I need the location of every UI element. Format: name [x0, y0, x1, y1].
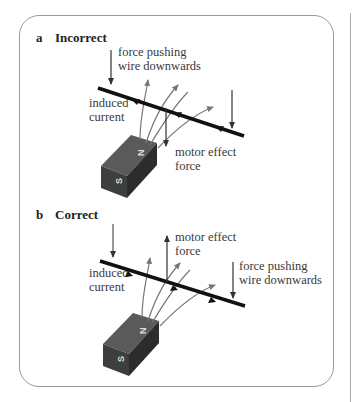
north-pole-label: N [136, 150, 146, 157]
panel-b-letter: b [36, 207, 43, 222]
motor-label-line1: motor effect [175, 145, 237, 159]
panel-b-title: Correct [55, 207, 99, 222]
motor-effect-diagram: a Incorrect force pushing wire downwards… [0, 0, 357, 402]
north-pole-label: N [138, 328, 148, 335]
motor-label-line1: motor effect [175, 230, 237, 244]
force-label-line2: wire downwards [118, 59, 201, 73]
bar-magnet: N S [103, 313, 159, 376]
force-label-line2: wire downwards [239, 273, 322, 287]
panel-a-letter: a [36, 30, 43, 45]
motor-label-line2: force [175, 159, 201, 173]
induced-label-line2: current [89, 280, 125, 294]
motor-label-line2: force [175, 244, 201, 258]
bar-magnet: N S [101, 135, 157, 198]
panel-a-title: Incorrect [55, 30, 107, 45]
panel-a: a Incorrect force pushing wire downwards… [36, 30, 244, 198]
induced-label-line2: current [89, 110, 125, 124]
south-pole-label: S [116, 356, 126, 362]
force-label-line1: force pushing [239, 259, 308, 273]
panel-b: b Correct motor effect force induced cur… [36, 207, 322, 376]
south-pole-label: S [114, 178, 124, 184]
force-label-line1: force pushing [118, 45, 187, 59]
